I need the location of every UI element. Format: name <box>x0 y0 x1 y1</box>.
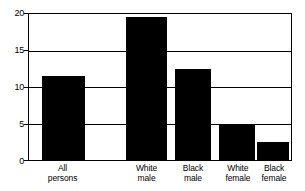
bar-black-male <box>175 69 211 160</box>
x-tick-label-all-persons: All persons <box>48 163 78 183</box>
y-tick-label-0: 0 <box>0 157 24 166</box>
x-tick-label-line2: persons <box>48 173 78 183</box>
x-tick-label-line1: Black <box>183 163 203 173</box>
x-tick-label-black-male: Black male <box>183 163 203 183</box>
x-tick-label-white-female: White female <box>225 163 250 183</box>
bar-white-female <box>219 124 255 161</box>
y-axis: 20 15 10 5 0 <box>0 0 24 191</box>
x-tick-label-line1: All <box>58 163 67 173</box>
x-tick-label-line2: male <box>136 173 157 183</box>
x-tick-label-line1: White <box>136 163 157 173</box>
plot-area <box>28 13 292 161</box>
bar-white-male <box>126 17 167 160</box>
x-tick-label-line1: White <box>227 163 248 173</box>
bar-black-female <box>257 142 289 160</box>
x-axis: All persons White male Black male White … <box>28 163 292 191</box>
x-tick-label-line2: male <box>183 173 203 183</box>
y-tick-label-15: 15 <box>0 46 24 55</box>
x-tick-label-line2: female <box>225 173 250 183</box>
y-tick-label-10: 10 <box>0 83 24 92</box>
x-tick-label-line2: female <box>262 173 287 183</box>
x-tick-label-white-male: White male <box>136 163 157 183</box>
bar-chart: 20 15 10 5 0 All persons White male <box>0 0 305 191</box>
x-tick-label-line1: Black <box>264 163 284 173</box>
y-tick-label-20: 20 <box>0 9 24 18</box>
bars-layer <box>29 14 291 160</box>
x-tick-label-black-female: Black female <box>262 163 287 183</box>
y-tick-label-5: 5 <box>0 120 24 129</box>
bar-all-persons <box>42 76 85 160</box>
